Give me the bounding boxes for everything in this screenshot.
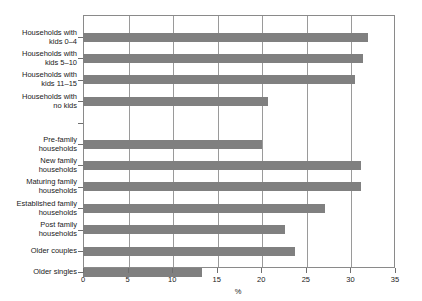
y-tick	[78, 251, 83, 252]
bar	[83, 75, 355, 84]
category-label: Older couples	[0, 246, 77, 255]
bar	[83, 247, 295, 256]
x-tick	[83, 268, 84, 273]
category-label: Older singles	[0, 267, 77, 276]
x-tick	[261, 268, 262, 273]
bar	[83, 225, 285, 234]
x-axis-title: %	[208, 287, 268, 296]
y-tick	[78, 58, 83, 59]
bar-chart: Households with kids 0–4Households with …	[0, 0, 422, 301]
bar	[83, 140, 262, 149]
y-tick	[78, 144, 83, 145]
bar	[83, 33, 368, 42]
y-tick	[78, 80, 83, 81]
x-tick-label: 15	[202, 275, 232, 284]
x-tick	[395, 268, 396, 273]
x-tick-label: 10	[157, 275, 187, 284]
x-tick-label: 5	[113, 275, 143, 284]
category-label: Post family households	[0, 220, 77, 238]
bar	[83, 161, 361, 170]
bar	[83, 54, 363, 63]
y-tick	[78, 101, 83, 102]
x-tick	[306, 268, 307, 273]
category-label: Households with no kids	[0, 92, 77, 110]
x-tick-label: 30	[335, 275, 365, 284]
x-tick	[128, 268, 129, 273]
y-tick	[78, 208, 83, 209]
x-tick	[217, 268, 218, 273]
x-tick	[350, 268, 351, 273]
category-label: New family households	[0, 156, 77, 174]
y-tick	[78, 165, 83, 166]
category-label: Established family households	[0, 199, 77, 217]
y-tick	[78, 230, 83, 231]
x-tick	[172, 268, 173, 273]
x-tick-label: 35	[380, 275, 410, 284]
bar	[83, 97, 268, 106]
x-tick-label: 0	[68, 275, 98, 284]
x-tick-label: 20	[246, 275, 276, 284]
bar	[83, 182, 361, 191]
bars-layer	[83, 15, 395, 268]
y-tick	[78, 187, 83, 188]
category-label: Pre-family households	[0, 135, 77, 153]
category-label: Households with kids 0–4	[0, 28, 77, 46]
y-tick	[78, 37, 83, 38]
category-label: Households with kids 5–10	[0, 49, 77, 67]
bar	[83, 204, 325, 213]
category-label: Maturing family households	[0, 177, 77, 195]
category-label: Households with kids 11–15	[0, 70, 77, 88]
x-tick-label: 25	[291, 275, 321, 284]
y-tick	[78, 123, 83, 124]
